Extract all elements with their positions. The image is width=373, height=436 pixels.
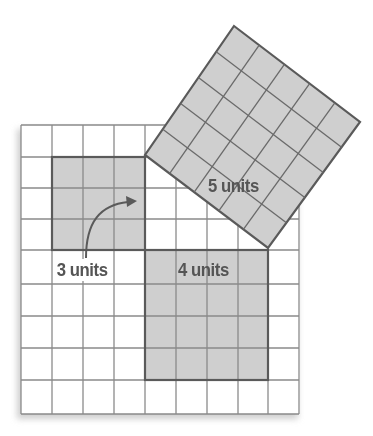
label-5-units: 5 units [208, 175, 259, 197]
label-4-units: 4 units [178, 259, 229, 281]
diagram-canvas [0, 0, 373, 436]
label-3-units: 3 units [55, 259, 109, 281]
pythagorean-diagram: 3 units 4 units 5 units [0, 0, 373, 436]
